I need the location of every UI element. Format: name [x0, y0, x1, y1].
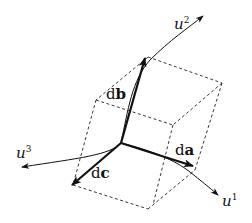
dc-label: dc: [91, 166, 110, 181]
da-d: d: [175, 141, 185, 159]
db-d: d: [106, 85, 116, 103]
u3-base: u: [16, 144, 26, 162]
db-label: db: [106, 87, 126, 102]
u2-base: u: [174, 15, 184, 33]
db-vec: b: [116, 85, 127, 103]
u2-label: u2: [174, 16, 189, 32]
u1-curve: [121, 143, 218, 195]
u3-label: u3: [16, 145, 31, 161]
da-vec: a: [185, 141, 195, 159]
u2-sup: 2: [184, 15, 190, 25]
diagram-svg: [0, 0, 252, 223]
dashed-box: [73, 57, 222, 209]
u2-curve: [121, 16, 203, 143]
u1-base: u: [222, 192, 232, 210]
u1-label: u1: [222, 193, 237, 209]
dc-d: d: [91, 164, 101, 182]
dc-vec: c: [101, 164, 110, 182]
u3-sup: 3: [26, 144, 32, 154]
da-label: da: [175, 143, 194, 158]
diagram-canvas: u2 u3 u1 db da dc: [0, 0, 252, 223]
coordinate-curves: [22, 16, 218, 195]
u1-sup: 1: [232, 192, 238, 202]
